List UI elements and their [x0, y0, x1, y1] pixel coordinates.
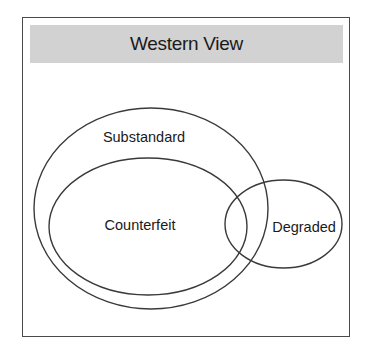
substandard-label: Substandard	[103, 129, 185, 145]
counterfeit-label: Counterfeit	[105, 217, 176, 233]
venn-diagram: Substandard Counterfeit Degraded	[0, 0, 367, 352]
degraded-label: Degraded	[272, 219, 336, 235]
